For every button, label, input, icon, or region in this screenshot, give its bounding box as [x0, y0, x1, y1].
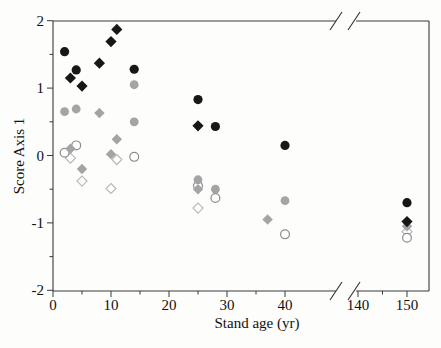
data-point-open-circle [130, 152, 139, 161]
x-tick-label: 150 [396, 297, 419, 313]
data-point-black-diamond [111, 24, 122, 35]
data-point-black-diamond [76, 80, 87, 91]
data-point-black-diamond [192, 120, 203, 131]
data-point-open-diamond [193, 203, 203, 213]
data-point-open-circle [281, 230, 290, 239]
data-point-black-circle [72, 65, 81, 74]
x-axis-title: Stand age (yr) [215, 315, 300, 332]
y-tick-label: -1 [32, 215, 45, 231]
data-point-open-circle [403, 233, 412, 242]
data-point-black-diamond [105, 36, 116, 47]
data-point-gray-diamond [112, 134, 122, 144]
y-tick-label: -2 [32, 282, 45, 298]
series-black-diamond [65, 24, 413, 227]
y-tick-label: 1 [37, 80, 45, 96]
data-point-gray-circle [281, 196, 290, 205]
data-point-open-diamond [77, 176, 87, 186]
data-point-gray-diamond [77, 164, 87, 174]
x-tick-label: 30 [220, 297, 235, 313]
data-point-black-circle [193, 95, 202, 104]
plot-canvas: 010203040140150210-1-2 [0, 0, 441, 348]
y-tick-label: 2 [37, 13, 45, 29]
data-point-open-diamond [106, 184, 116, 194]
series-open-diamond [65, 153, 412, 236]
data-point-gray-diamond [94, 108, 104, 118]
y-tick-label: 0 [37, 148, 45, 164]
x-tick-label: 10 [104, 297, 119, 313]
data-point-gray-circle [72, 105, 81, 114]
series-black-circle [60, 47, 412, 207]
x-tick-label: 0 [49, 297, 57, 313]
x-tick-labels: 010203040140150 [49, 297, 418, 313]
x-tick-label: 20 [162, 297, 177, 313]
data-point-black-circle [211, 122, 220, 131]
data-point-gray-diamond [262, 214, 272, 224]
series-gray-diamond [65, 108, 412, 232]
data-point-open-circle [211, 194, 220, 203]
data-point-gray-circle [130, 80, 139, 89]
axis-break-marks [330, 12, 360, 300]
scatter-plot-figure: 010203040140150210-1-2 Score Axis 1 Stan… [0, 0, 441, 348]
data-point-black-diamond [94, 58, 105, 69]
x-tick-label: 40 [278, 297, 293, 313]
y-axis-title: Score Axis 1 [11, 118, 28, 195]
data-point-black-circle [60, 47, 69, 56]
data-point-gray-circle [130, 117, 139, 126]
data-point-black-circle [402, 198, 411, 207]
data-point-black-circle [280, 141, 289, 150]
y-tick-labels: 210-1-2 [32, 13, 45, 299]
x-tick-label: 140 [347, 297, 370, 313]
data-point-gray-circle [211, 185, 220, 194]
data-point-gray-circle [60, 107, 69, 116]
series-gray-circle [60, 80, 289, 205]
data-point-black-circle [130, 65, 139, 74]
data-point-gray-circle [194, 175, 203, 184]
